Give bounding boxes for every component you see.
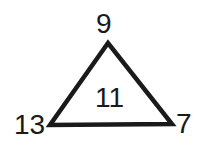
number-triangle-diagram: 9 13 7 11 [0, 0, 201, 148]
bottom-right-vertex-number: 7 [176, 110, 192, 138]
top-vertex-number: 9 [96, 10, 112, 38]
bottom-left-vertex-number: 13 [14, 111, 45, 139]
center-number: 11 [95, 84, 124, 112]
